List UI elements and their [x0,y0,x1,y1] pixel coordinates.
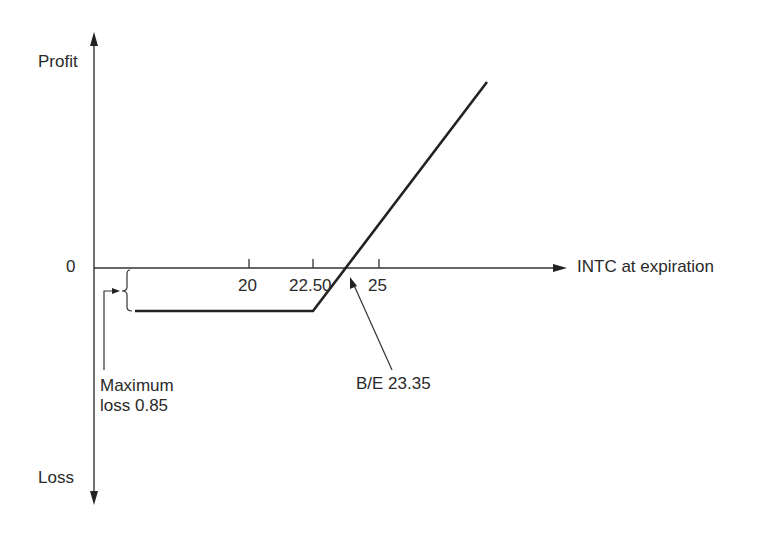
breakeven-label: B/E 23.35 [356,374,431,394]
x-axis-label: INTC at expiration [577,257,714,277]
tick-label-20: 20 [238,276,257,296]
breakeven-pointer [353,283,392,370]
zero-label: 0 [66,257,75,277]
max-loss-arrow-icon [112,288,120,294]
max-loss-brace [122,270,132,311]
y-axis-down-arrow-icon [90,491,98,505]
tick-label-22-50: 22.50 [289,276,332,296]
profit-label: Profit [38,52,78,72]
max-loss-label-line2: loss 0.85 [100,396,168,416]
loss-label: Loss [38,468,74,488]
tick-label-25: 25 [368,276,387,296]
x-axis-arrow-icon [553,264,567,272]
max-loss-label-line1: Maximum [100,376,174,396]
breakeven-arrow-icon [350,277,357,289]
max-loss-pointer [104,291,114,370]
y-axis-up-arrow-icon [90,32,98,46]
